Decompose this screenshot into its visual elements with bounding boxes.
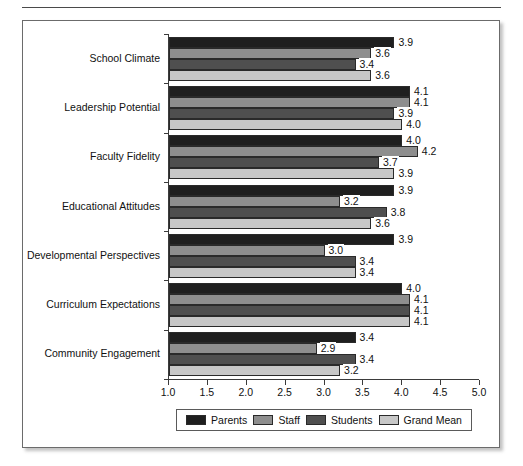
- bar-parents: [169, 185, 394, 196]
- bar-row: 3.4: [169, 59, 479, 70]
- x-axis-tick: [168, 380, 169, 385]
- bar-staff: [169, 97, 410, 108]
- bar-row: 3.8: [169, 207, 479, 218]
- bar-grand-mean: [169, 365, 340, 376]
- legend-swatch-icon: [253, 415, 273, 425]
- bar-row: 3.9: [169, 185, 479, 196]
- bar-grand-mean: [169, 316, 410, 327]
- bar-value-label: 4.0: [405, 134, 422, 146]
- bar-value-label: 4.1: [413, 315, 430, 327]
- bar-row: 2.9: [169, 343, 479, 354]
- bar-grand-mean: [169, 168, 394, 179]
- bar-value-label: 3.4: [359, 331, 376, 343]
- chart-figure-frame: 1.01.52.02.53.03.54.04.55.0 School Clima…: [22, 20, 500, 448]
- x-axis-tick: [285, 380, 286, 385]
- bar-staff: [169, 294, 410, 305]
- bar-row: 4.0: [169, 283, 479, 294]
- x-axis-tick: [362, 380, 363, 385]
- bar-row: 3.6: [169, 48, 479, 59]
- x-axis-tick: [479, 380, 480, 385]
- bar-staff: [169, 48, 371, 59]
- category-label: School Climate: [89, 52, 160, 64]
- bar-staff: [169, 245, 325, 256]
- legend-swatch-icon: [379, 415, 399, 425]
- bar-group: Community Engagement3.42.93.43.2: [169, 332, 479, 376]
- legend-item-parents[interactable]: Parents: [186, 414, 247, 426]
- bar-value-label: 3.6: [374, 69, 391, 81]
- y-axis-tick: [164, 330, 169, 331]
- bar-students: [169, 256, 356, 267]
- bar-grand-mean: [169, 218, 371, 229]
- x-axis-tick: [207, 380, 208, 385]
- bar-value-label: 4.2: [421, 145, 438, 157]
- bar-staff: [169, 343, 317, 354]
- bar-parents: [169, 234, 394, 245]
- legend-swatch-icon: [306, 415, 326, 425]
- legend-item-grandmean[interactable]: Grand Mean: [379, 414, 462, 426]
- bar-row: 4.2: [169, 146, 479, 157]
- bar-value-label: 3.7: [382, 156, 399, 168]
- bar-value-label: 3.9: [397, 36, 414, 48]
- bar-row: 3.9: [169, 108, 479, 119]
- bar-value-label: 4.0: [405, 118, 422, 130]
- bar-row: 3.2: [169, 365, 479, 376]
- bar-group: School Climate3.93.63.43.6: [169, 37, 479, 81]
- category-label: Faculty Fidelity: [90, 150, 160, 162]
- bar-group: Faculty Fidelity4.04.23.73.9: [169, 135, 479, 179]
- bar-row: 3.7: [169, 157, 479, 168]
- bar-value-label: 3.2: [343, 195, 360, 207]
- x-axis-tick-label: 2.5: [277, 386, 292, 398]
- x-axis-tick-label: 3.0: [316, 386, 331, 398]
- x-axis-tick-label: 3.5: [355, 386, 370, 398]
- bar-group: Curriculum Expectations4.04.14.14.1: [169, 283, 479, 327]
- bar-row: 3.6: [169, 218, 479, 229]
- category-label: Community Engagement: [44, 347, 160, 359]
- bar-group: Developmental Perspectives3.93.03.43.4: [169, 234, 479, 278]
- bar-row: 4.0: [169, 119, 479, 130]
- bar-group: Educational Attitudes3.93.23.83.6: [169, 185, 479, 229]
- bar-students: [169, 157, 379, 168]
- bar-row: 3.4: [169, 256, 479, 267]
- bar-staff: [169, 146, 418, 157]
- legend-item-staff[interactable]: Staff: [253, 414, 299, 426]
- bar-row: 4.1: [169, 316, 479, 327]
- bar-row: 3.9: [169, 168, 479, 179]
- legend-swatch-icon: [186, 415, 206, 425]
- legend-label: Parents: [211, 414, 247, 426]
- bar-grand-mean: [169, 267, 356, 278]
- bar-row: 4.1: [169, 294, 479, 305]
- bar-value-label: 3.0: [328, 244, 345, 256]
- bar-students: [169, 59, 356, 70]
- legend-item-students[interactable]: Students: [306, 414, 372, 426]
- bar-group: Leadership Potential4.14.13.94.0: [169, 86, 479, 130]
- bar-students: [169, 108, 394, 119]
- category-label: Leadership Potential: [64, 101, 160, 113]
- bar-parents: [169, 283, 402, 294]
- category-label: Curriculum Expectations: [46, 298, 160, 310]
- bar-value-label: 3.9: [397, 184, 414, 196]
- bar-row: 3.4: [169, 267, 479, 278]
- bar-row: 4.1: [169, 86, 479, 97]
- chart-legend: ParentsStaffStudentsGrand Mean: [176, 409, 472, 431]
- bar-row: 3.0: [169, 245, 479, 256]
- x-axis-tick: [324, 380, 325, 385]
- top-horizontal-rule: [22, 7, 501, 8]
- bar-grand-mean: [169, 70, 371, 81]
- bar-parents: [169, 135, 402, 146]
- bar-value-label: 3.8: [390, 206, 407, 218]
- y-axis-tick: [164, 231, 169, 232]
- bar-row: 4.1: [169, 97, 479, 108]
- bar-row: 3.4: [169, 354, 479, 365]
- x-axis-tick-label: 2.0: [238, 386, 253, 398]
- y-axis-tick: [164, 83, 169, 84]
- bar-parents: [169, 86, 410, 97]
- bar-value-label: 3.4: [359, 353, 376, 365]
- y-axis-tick: [164, 34, 169, 35]
- bar-students: [169, 305, 410, 316]
- x-axis-tick-label: 1.0: [161, 386, 176, 398]
- bar-value-label: 2.9: [320, 342, 337, 354]
- plot-area: 1.01.52.02.53.03.54.04.55.0 School Clima…: [168, 34, 479, 379]
- bar-row: 4.1: [169, 305, 479, 316]
- legend-label: Grand Mean: [404, 414, 462, 426]
- legend-label: Students: [331, 414, 372, 426]
